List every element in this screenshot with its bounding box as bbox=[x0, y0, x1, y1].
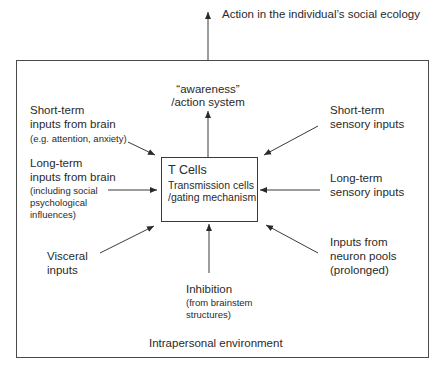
long-brain-sub1: (including social bbox=[30, 185, 98, 197]
neuron-pools-l1: Inputs from bbox=[330, 236, 388, 250]
inhibition-sub1: (from brainstem bbox=[186, 297, 253, 309]
inhibition-sub2: structures) bbox=[186, 309, 231, 321]
t-cells-title: T Cells bbox=[168, 164, 207, 178]
short-brain-l2: inputs from brain bbox=[30, 118, 116, 132]
visceral-arrow bbox=[100, 226, 154, 253]
short-sensory-l2: sensory inputs bbox=[330, 118, 404, 132]
long-brain-sub2: psychological bbox=[30, 197, 87, 209]
short-brain-l1: Short-term bbox=[30, 104, 84, 118]
t-cells-line2: /gating mechanism bbox=[168, 191, 256, 203]
long-brain-l2: inputs from brain bbox=[30, 171, 116, 185]
neuron-pools-l2: neuron pools bbox=[330, 250, 397, 264]
inhibition-l1: Inhibition bbox=[186, 283, 232, 297]
environment-label: Intrapersonal environment bbox=[149, 337, 283, 351]
short-sensory-l1: Short-term bbox=[330, 104, 384, 118]
short-brain-sub: (e.g. attention, anxiety) bbox=[30, 133, 127, 145]
long-brain-sub3: influences) bbox=[30, 209, 76, 221]
short-sensory-arrow bbox=[264, 126, 318, 155]
neuron-pools-l3: (prolonged) bbox=[330, 264, 389, 278]
awareness-line1: “awareness” bbox=[158, 83, 258, 97]
long-brain-l1: Long-term bbox=[30, 157, 82, 171]
short-brain-arrow bbox=[128, 142, 155, 155]
long-sensory-l1: Long-term bbox=[330, 172, 382, 186]
t-cells-line1: Transmission cells bbox=[168, 179, 254, 191]
awareness-line2: /action system bbox=[158, 96, 258, 110]
long-sensory-l2: sensory inputs bbox=[330, 186, 404, 200]
action-label: Action in the individual’s social ecolog… bbox=[222, 8, 420, 22]
visceral-l1: Visceral bbox=[47, 250, 88, 264]
neuron-pools-arrow bbox=[266, 225, 318, 253]
visceral-l2: inputs bbox=[47, 264, 78, 278]
